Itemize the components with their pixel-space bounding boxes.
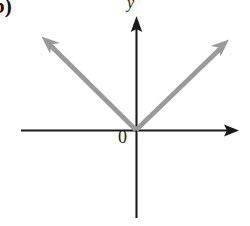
origin-label: 0	[118, 128, 127, 146]
figure-container: b) y 0	[0, 0, 250, 226]
part-label: b)	[0, 0, 12, 17]
graph-right-ray	[136, 47, 222, 130]
coordinate-plane-graphic	[0, 0, 250, 226]
y-axis-label: y	[127, 0, 134, 11]
graph-left-ray	[48, 43, 136, 130]
